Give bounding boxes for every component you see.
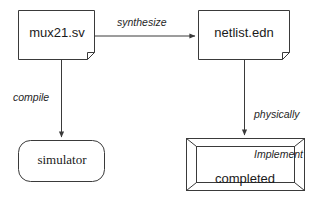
implement-label-line1: physically <box>254 108 303 121</box>
implement-label: physically Implement <box>254 82 303 187</box>
compile-label: compile <box>13 92 49 103</box>
synthesize-label: synthesize <box>117 17 167 28</box>
diagram-canvas: mux21.sv netlist.edn simulator completed… <box>0 0 321 197</box>
netlist-file-label: netlist.edn <box>199 26 289 40</box>
source-file-label: mux21.sv <box>20 26 94 40</box>
implement-label-line2: Implement <box>254 148 303 161</box>
simulator-label: simulator <box>20 153 104 167</box>
